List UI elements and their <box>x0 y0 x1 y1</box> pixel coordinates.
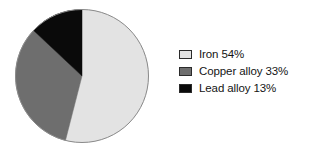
legend-label-copper-alloy: Copper alloy 33% <box>199 65 288 78</box>
pie-svg <box>14 8 150 144</box>
pie-chart-graphic <box>14 8 150 144</box>
legend-swatch-lead-alloy <box>179 84 192 93</box>
legend-swatch-iron <box>179 50 192 59</box>
legend-label-lead-alloy: Lead alloy 13% <box>199 82 276 95</box>
legend-item-copper-alloy: Copper alloy 33% <box>179 64 319 79</box>
legend-swatch-copper-alloy <box>179 67 192 76</box>
pie-chart-figure: Iron 54% Copper alloy 33% Lead alloy 13% <box>0 0 324 151</box>
legend-item-lead-alloy: Lead alloy 13% <box>179 81 319 96</box>
pie-slice-group <box>16 10 149 143</box>
legend-item-iron: Iron 54% <box>179 47 319 62</box>
legend-label-iron: Iron 54% <box>199 48 244 61</box>
legend: Iron 54% Copper alloy 33% Lead alloy 13% <box>179 47 319 98</box>
